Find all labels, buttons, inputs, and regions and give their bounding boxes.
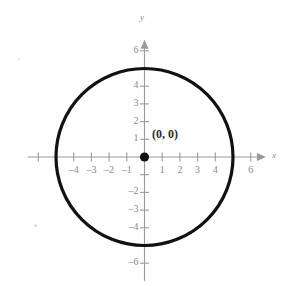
- origin-point-marker: [140, 152, 149, 161]
- x-tick-label: –1: [113, 164, 141, 175]
- x-axis-arrowhead-icon: [257, 153, 266, 161]
- y-tick-label: –6: [113, 256, 139, 267]
- scan-speck: [18, 58, 20, 60]
- x-axis-name-label: x: [272, 150, 276, 160]
- origin-point-label: (0, 0): [152, 127, 178, 142]
- y-tick-label: 2: [113, 115, 139, 126]
- y-tick-label: 6: [113, 44, 139, 55]
- scan-speck: [34, 224, 37, 227]
- y-tick-label: –2: [113, 185, 139, 196]
- x-tick-label: 4: [201, 164, 229, 175]
- y-tick-label: 3: [113, 97, 139, 108]
- graph-figure: x y (0, 0) –4–3–2–112346 64321–2–3–4–6: [0, 0, 290, 286]
- y-tick-label: 4: [113, 79, 139, 90]
- y-axis-arrowhead-icon: [141, 40, 149, 49]
- y-tick-label: –4: [113, 221, 139, 232]
- y-axis-name-label: y: [140, 12, 144, 22]
- x-tick-label: 6: [237, 164, 265, 175]
- y-tick-label: –3: [113, 203, 139, 214]
- coordinate-plane-svg: [0, 0, 290, 286]
- y-tick-label: 1: [113, 132, 139, 143]
